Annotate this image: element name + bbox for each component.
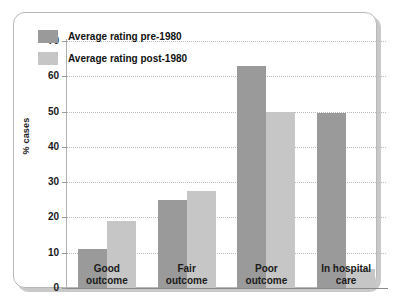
x-axis-tick-label-line: care: [306, 275, 386, 287]
x-axis-tick-label-line: outcome: [147, 275, 227, 287]
bar-group: [237, 41, 295, 288]
x-axis-tick-label-line: Fair: [147, 263, 227, 275]
y-axis-label: % cases: [21, 118, 31, 155]
x-axis-tick-label-line: In hospital: [306, 263, 386, 275]
x-axis-tick-label-line: Poor: [227, 263, 307, 275]
bar-post-1980: [266, 112, 295, 288]
bar-group: [158, 41, 216, 288]
x-axis-tick-label: Goodoutcome: [67, 263, 147, 287]
y-axis-tick-label: 40: [31, 142, 59, 152]
legend-swatch-icon: [38, 52, 58, 65]
chart-figure: % cases 706050403020100 GoodoutcomeFairo…: [0, 0, 397, 308]
legend-item[interactable]: Average rating post-1980: [38, 52, 187, 65]
bar-pre-1980: [237, 66, 266, 288]
bar-group: [317, 41, 375, 288]
y-axis-tick-label: 20: [31, 212, 59, 222]
bar-group: [78, 41, 136, 288]
x-axis-tick-label: In hospitalcare: [306, 263, 386, 287]
legend-item-label: Average rating post-1980: [68, 53, 187, 64]
legend-item-label: Average rating pre-1980: [68, 31, 182, 42]
plot-area: [67, 41, 386, 288]
legend-swatch-icon: [38, 30, 58, 43]
chart-card: % cases 706050403020100 GoodoutcomeFairo…: [13, 12, 377, 288]
bar-pre-1980: [317, 113, 346, 288]
chart-legend: Average rating pre-1980Average rating po…: [38, 30, 187, 74]
y-axis-tick-mark: [62, 288, 67, 289]
legend-item[interactable]: Average rating pre-1980: [38, 30, 187, 43]
x-axis-tick-label-line: outcome: [227, 275, 307, 287]
x-axis-line: [66, 288, 388, 289]
y-axis-tick-label: 10: [31, 248, 59, 258]
x-axis-tick-label: Fairoutcome: [147, 263, 227, 287]
x-axis-tick-label: Pooroutcome: [227, 263, 307, 287]
x-axis-tick-label-line: outcome: [67, 275, 147, 287]
y-axis-tick-label: 50: [31, 107, 59, 117]
y-axis-tick-label: 0: [31, 283, 59, 293]
y-axis-tick-label: 30: [31, 177, 59, 187]
x-axis-tick-label-line: Good: [67, 263, 147, 275]
